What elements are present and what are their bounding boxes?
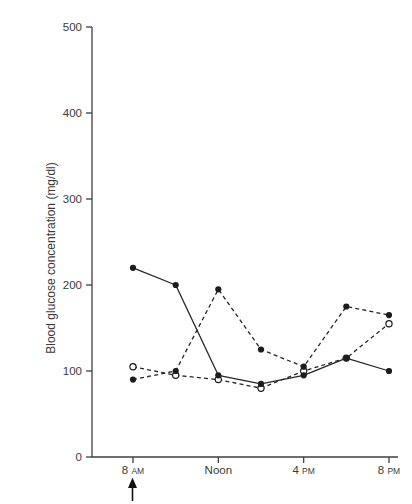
filled-circle-marker: [130, 377, 136, 383]
axis-frame: [92, 27, 398, 457]
y-tick-label: 300: [63, 193, 82, 205]
x-tick-label: 8 AM: [122, 464, 144, 476]
y-tick-label: 500: [63, 21, 82, 33]
y-tick-label: 0: [76, 451, 82, 463]
data-series: [130, 265, 392, 392]
filled-circle-marker: [386, 368, 392, 374]
y-tick-label: 200: [63, 279, 82, 291]
filled-circle-marker: [258, 381, 264, 387]
series-line-dashed-filled-circles: [133, 289, 389, 379]
y-axis-ticks: 0100200300400500: [63, 21, 92, 463]
filled-circle-marker: [386, 312, 392, 318]
filled-circle-marker: [258, 346, 264, 352]
y-tick-label: 100: [63, 365, 82, 377]
x-tick-label: Noon: [205, 464, 233, 476]
filled-circle-marker: [215, 286, 221, 292]
series-line-solid-filled-circles: [133, 268, 389, 384]
filled-circle-marker: [173, 282, 179, 288]
open-circle-marker: [386, 321, 392, 327]
up-arrow-icon: [128, 478, 137, 502]
x-tick-label: 4 PM: [292, 464, 314, 476]
open-circle-marker: [130, 364, 136, 370]
filled-circle-marker: [343, 303, 349, 309]
glucose-line-chart-figure: Blood glucose concentration (mg/dl) 0100…: [0, 0, 412, 504]
filled-circle-marker: [301, 372, 307, 378]
y-axis-label: Blood glucose concentration (mg/dl): [44, 162, 58, 353]
x-tick-label: 8 PM: [378, 464, 400, 476]
y-tick-label: 400: [63, 107, 82, 119]
x-axis-ticks: 8 AMNoon4 PM8 PM: [122, 457, 400, 476]
filled-circle-marker: [173, 368, 179, 374]
filled-circle-marker: [215, 372, 221, 378]
chart-canvas: Blood glucose concentration (mg/dl) 0100…: [0, 0, 412, 504]
series-line-dashed-open-circles: [133, 324, 389, 389]
filled-circle-marker: [301, 364, 307, 370]
filled-circle-marker: [343, 355, 349, 361]
filled-circle-marker: [130, 265, 136, 271]
